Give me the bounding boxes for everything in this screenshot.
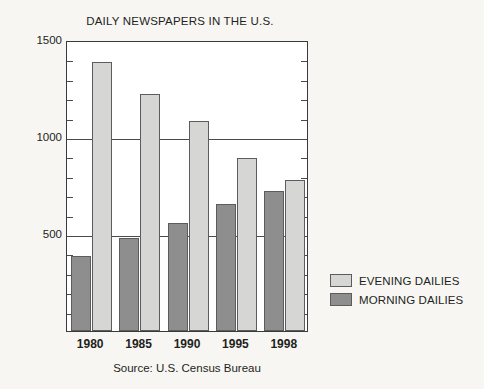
y-axis-labels: 15001000500 — [14, 41, 62, 332]
y-axis-minor-tick — [67, 197, 73, 198]
y-axis-minor-tick — [67, 178, 73, 179]
y-axis-minor-tick — [67, 217, 73, 218]
legend-item: EVENING DAILIES — [330, 272, 480, 289]
y-axis-minor-tick — [67, 158, 73, 159]
bar-morning-1995 — [216, 204, 236, 331]
legend-swatch-evening — [330, 274, 352, 287]
y-axis-tick-label: 500 — [18, 229, 62, 241]
bar-morning-1980 — [71, 256, 91, 331]
y-axis-minor-tick — [301, 120, 307, 121]
legend-label: EVENING DAILIES — [359, 275, 460, 287]
chart-title: DAILY NEWSPAPERS IN THE U.S. — [0, 15, 360, 27]
bar-evening-1990 — [189, 121, 209, 331]
source-caption: Source: U.S. Census Bureau — [66, 362, 308, 374]
legend-swatch-morning — [330, 293, 352, 306]
y-axis-tick-label: 1500 — [18, 35, 62, 47]
legend-item: MORNING DAILIES — [330, 291, 480, 308]
y-axis-minor-tick — [67, 81, 73, 82]
y-axis-minor-tick — [67, 61, 73, 62]
y-axis-minor-tick — [301, 100, 307, 101]
y-axis-minor-tick — [67, 120, 73, 121]
y-axis-minor-tick — [301, 158, 307, 159]
bar-evening-1995 — [237, 158, 257, 331]
bar-evening-1985 — [140, 94, 160, 331]
bar-morning-1985 — [119, 238, 139, 332]
bar-evening-1980 — [92, 62, 112, 331]
chart-legend: EVENING DAILIESMORNING DAILIES — [330, 272, 480, 310]
chart-figure: DAILY NEWSPAPERS IN THE U.S. 15001000500… — [0, 0, 484, 389]
y-axis-tick-label: 1000 — [18, 132, 62, 144]
legend-label: MORNING DAILIES — [359, 294, 463, 306]
y-axis-minor-tick — [301, 81, 307, 82]
bar-evening-1998 — [285, 180, 305, 332]
bar-morning-1998 — [264, 191, 284, 331]
x-axis-labels: 19801985199019951998 — [66, 337, 308, 357]
plot-area — [66, 41, 308, 332]
y-axis-minor-tick — [301, 61, 307, 62]
y-axis-minor-tick — [67, 100, 73, 101]
bar-morning-1990 — [168, 223, 188, 331]
x-axis-tick-label-1998: 1998 — [254, 337, 314, 351]
